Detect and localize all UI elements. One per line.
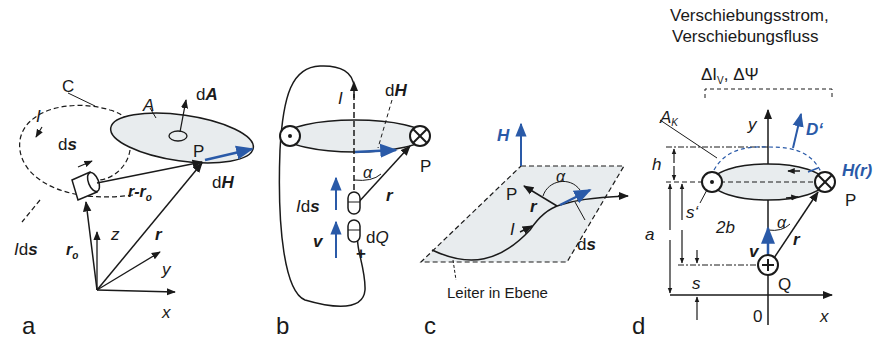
label-dq: dQ <box>366 228 389 247</box>
biot-savart-figure: C I A dA ds P dH r-ro Ids ro z r y x a <box>0 0 887 348</box>
label-ids: Ids <box>14 240 38 259</box>
label-x-d: x <box>819 307 829 326</box>
label-dh-b: dH <box>385 81 407 100</box>
label-y: y <box>161 260 172 279</box>
label-ak: AK <box>659 108 679 128</box>
label-q: Q <box>778 275 791 294</box>
panel-a: C I A dA ds P dH r-ro Ids ro z r y x a <box>14 77 257 339</box>
panel-d: Verschiebungsstrom, Verschiebungsfluss Δ… <box>632 6 873 339</box>
y-axis <box>97 252 160 290</box>
label-point-p-b: P <box>420 157 431 176</box>
label-2b: 2b <box>715 218 735 237</box>
label-point-p-d: P <box>845 191 856 210</box>
panel-c: H α P r I ds Leiter in Ebene c <box>421 124 628 339</box>
label-h-c: H <box>497 126 510 145</box>
label-area: A <box>142 96 154 115</box>
label-s-prime: s‘ <box>686 203 700 222</box>
label-current-b: I <box>338 89 343 108</box>
panel-label-b: b <box>276 312 289 339</box>
label-v-d: v <box>749 242 760 261</box>
label-current-c: I <box>510 220 515 239</box>
label-contour: C <box>62 77 74 96</box>
label-r-d: r <box>793 230 801 249</box>
title-line-1: Verschiebungsstrom, <box>670 6 829 25</box>
conductor-loop <box>279 66 365 306</box>
label-dh: dH <box>212 173 234 192</box>
panel-label-d: d <box>632 312 645 339</box>
label-z: z <box>110 225 120 244</box>
label-da: dA <box>196 85 218 104</box>
label-x: x <box>161 303 171 322</box>
label-r: r <box>155 225 163 244</box>
current-element-cylinder <box>72 161 102 200</box>
area-a <box>107 105 256 171</box>
label-v-b: v <box>313 232 324 251</box>
r-minus-r0-vector <box>97 162 202 183</box>
area-b <box>285 120 425 152</box>
title-line-2: Verschiebungsfluss <box>672 27 818 46</box>
r0-vector <box>86 202 97 290</box>
label-alpha-c: α <box>556 168 566 185</box>
label-alpha-b: α <box>363 164 373 181</box>
label-point-p-c: P <box>506 185 517 204</box>
x-axis <box>97 290 175 292</box>
label-current: I <box>36 107 41 126</box>
caption-leiter-in-ebene: Leiter in Ebene <box>447 284 548 301</box>
label-ds: ds <box>58 135 77 154</box>
label-origin: 0 <box>753 307 762 326</box>
label-point-p: P <box>193 142 204 161</box>
label-y-d: y <box>747 115 758 134</box>
d-prime-vector <box>793 114 801 148</box>
label-ds-c: ds <box>577 235 596 254</box>
label-ids-b: Ids <box>296 197 320 216</box>
label-r-b: r <box>386 186 394 205</box>
label-s: s <box>692 274 701 293</box>
panel-label-a: a <box>22 312 36 339</box>
label-h: h <box>652 155 661 174</box>
label-h-r: H(r) <box>842 161 873 180</box>
panel-label-c: c <box>424 312 436 339</box>
label-a: a <box>645 225 654 244</box>
label-d-prime: D‘ <box>806 120 823 139</box>
label-r-minus-r0: r-ro <box>128 183 152 203</box>
panel-b: I dH P α r Ids v dQ + b <box>276 66 431 339</box>
label-alpha-d: α <box>777 214 787 231</box>
label-r0: ro <box>66 241 78 261</box>
label-plus: + <box>356 244 366 263</box>
label-quantities: ΔIV, ΔΨ <box>701 65 759 86</box>
